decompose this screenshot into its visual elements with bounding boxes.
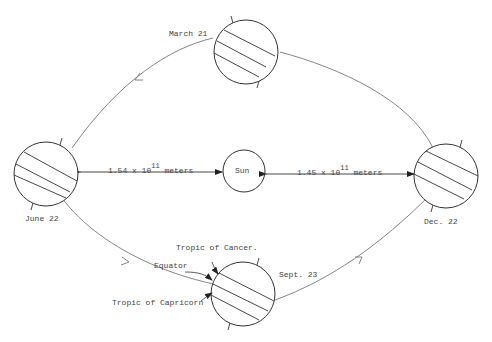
label-equator: Equator (154, 262, 188, 270)
arrow-chevron-icon (135, 73, 143, 80)
distance-label-right: 1.45 x 1011 meters (297, 166, 382, 177)
distance-left-exponent: 11 (151, 162, 159, 170)
sun-label: Sun (235, 167, 249, 175)
distance-left-mantissa: 1.54 x 10 (108, 166, 151, 175)
label-tropic-capricorn: Tropic of Capricorn (112, 299, 203, 307)
distance-right-mantissa: 1.45 x 10 (297, 168, 340, 177)
distance-label-left: 1.54 x 1011 meters (108, 164, 193, 175)
label-dec: Dec. 22 (424, 218, 458, 226)
label-june: June 22 (25, 215, 59, 223)
distance-left-unit: meters (164, 166, 193, 175)
label-tropic-cancer: Tropic of Cancer. (176, 244, 258, 252)
label-sept: Sept. 23 (279, 271, 317, 279)
earth-march (214, 16, 278, 88)
distance-right-unit: meters (353, 168, 382, 177)
earth-june (14, 138, 78, 210)
distance-right-exponent: 11 (340, 164, 348, 172)
arrow-chevron-icon (355, 257, 362, 264)
label-march: March 21 (169, 30, 207, 38)
earth-sept (211, 258, 275, 330)
arrow-chevron-icon (121, 257, 129, 265)
